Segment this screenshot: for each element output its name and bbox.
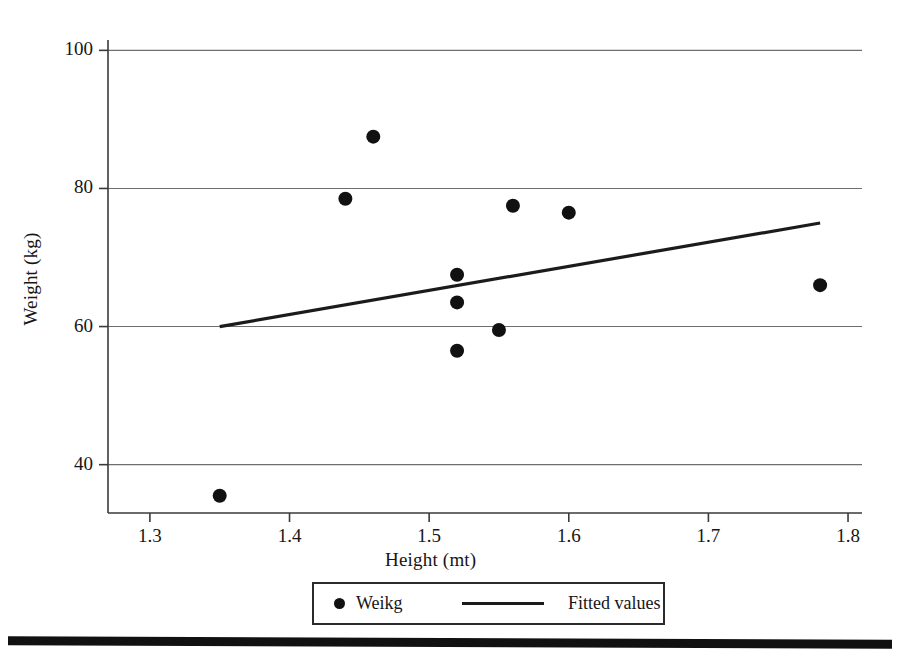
- x-tick-label: 1.7: [678, 525, 738, 547]
- scatter-point: [338, 192, 352, 206]
- axis-frame: [108, 40, 862, 513]
- chart-figure: Weight (kg) Height (mt) 406080100 1.31.4…: [0, 0, 899, 661]
- y-tick-label: 60: [41, 315, 93, 337]
- legend-label-scatter: Weikg: [356, 593, 403, 614]
- scatter-markers: [213, 130, 827, 503]
- legend-dot-icon: [334, 598, 345, 609]
- legend-label-fitted: Fitted values: [568, 593, 661, 614]
- y-axis-title: Weight (kg): [20, 199, 42, 359]
- chart-legend: Weikg Fitted values: [312, 582, 665, 625]
- scatter-point: [813, 278, 827, 292]
- scatter-point: [450, 344, 464, 358]
- x-tick-label: 1.8: [818, 525, 878, 547]
- axis-tickmarks: [99, 50, 848, 522]
- x-tick-label: 1.6: [539, 525, 599, 547]
- scatter-point: [366, 130, 380, 144]
- fitted-values-line: [220, 223, 820, 327]
- legend-entry-scatter: Weikg: [334, 584, 403, 623]
- legend-line-icon: [462, 602, 544, 605]
- legend-entry-fitted: Fitted values: [462, 584, 661, 623]
- scatter-point: [450, 268, 464, 282]
- x-tick-label: 1.5: [399, 525, 459, 547]
- scatter-point: [562, 206, 576, 220]
- x-axis-title: Height (mt): [385, 549, 476, 571]
- x-tick-label: 1.4: [260, 525, 320, 547]
- scatter-point: [506, 199, 520, 213]
- x-tick-label: 1.3: [120, 525, 180, 547]
- y-tick-label: 80: [41, 176, 93, 198]
- y-tick-label: 100: [41, 38, 93, 60]
- gridlines: [108, 50, 862, 464]
- scatter-point: [213, 489, 227, 503]
- y-tick-label: 40: [41, 453, 93, 475]
- scatter-point: [450, 295, 464, 309]
- scatter-point: [492, 323, 506, 337]
